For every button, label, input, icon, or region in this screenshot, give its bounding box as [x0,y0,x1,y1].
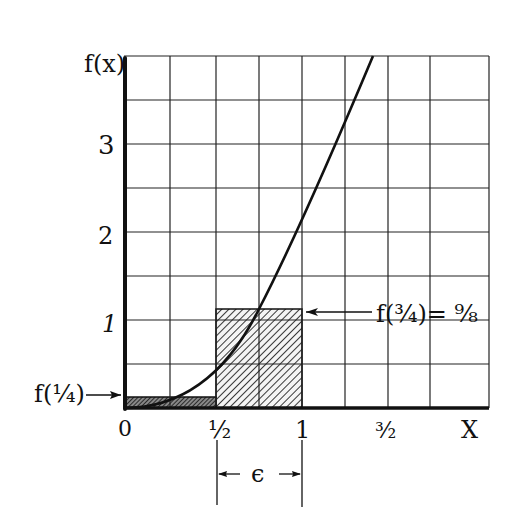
x-tick-half: ½ [208,416,231,444]
x-tick-1: 1 [295,416,310,444]
epsilon-arrow-right [292,471,301,477]
epsilon-arrow-left [218,471,227,477]
x-tick-0: 0 [118,416,132,441]
grid [124,56,489,408]
x-tick-three-halves: ³⁄₂ [375,418,396,443]
y-tick-2: 2 [98,222,113,250]
f-three-quarters-label: f(¾)= ⁹⁄₈ [376,300,478,328]
riemann-diagram: f(x) X 3 2 1 0 ½ 1 ³⁄₂ f(¼) f(¾)= ⁹⁄₈ ϵ [0,0,524,532]
epsilon-label: ϵ [251,460,264,488]
y-tick-3: 3 [98,130,115,160]
y-tick-1: 1 [102,310,117,338]
y-axis-label: f(x) [84,50,125,78]
f-quarter-arrow [86,391,121,399]
f-three-quarters-arrow [306,308,372,316]
x-axis-label: X [461,416,478,444]
f-quarter-label: f(¼) [34,380,85,408]
